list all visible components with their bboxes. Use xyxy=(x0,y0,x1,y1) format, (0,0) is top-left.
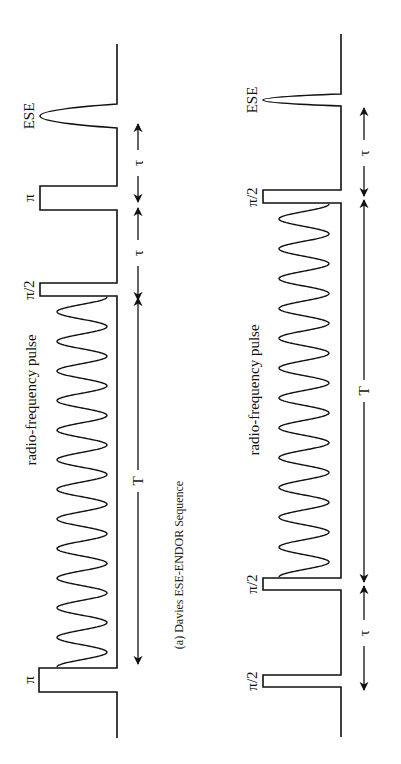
left-rf-label: radio-frequency pulse xyxy=(23,334,39,466)
right-ese-label: ESE xyxy=(244,87,260,114)
right-sequence: ESE π/2 radio-frequency pulse π/2 π/2 τ … xyxy=(244,34,372,737)
left-tau2-arrow: τ xyxy=(130,208,146,300)
left-T-label: T xyxy=(130,476,146,485)
right-T-arrow: T xyxy=(356,200,372,582)
left-pi-top-label: π xyxy=(21,194,37,202)
left-tau1-label: τ xyxy=(130,160,146,166)
left-sequence: ESE π π/2 radio-frequency pulse π τ τ T … xyxy=(21,44,186,738)
left-T-arrow: T xyxy=(130,298,146,664)
right-pi2-bottom-label: π/2 xyxy=(244,671,260,690)
left-ese-label: ESE xyxy=(21,103,37,130)
left-timeline xyxy=(39,44,117,738)
left-rf-wave xyxy=(57,297,107,667)
right-tau1-label: τ xyxy=(356,150,372,156)
right-T-label: T xyxy=(356,386,372,395)
right-tau2-label: τ xyxy=(356,630,372,636)
right-rf-label: radio-frequency pulse xyxy=(246,324,262,456)
left-tau1-arrow: τ xyxy=(130,124,146,202)
right-pi2-top-label: π/2 xyxy=(244,187,260,206)
right-tau1-arrow: τ xyxy=(356,108,372,196)
right-timeline xyxy=(263,34,341,737)
right-pi2-mid-label: π/2 xyxy=(244,574,260,593)
left-pi-bottom-label: π xyxy=(21,676,37,684)
left-tau2-label: τ xyxy=(130,250,146,256)
pulse-sequence-figure: ESE π π/2 radio-frequency pulse π τ τ T … xyxy=(0,0,401,764)
left-pi2-label: π/2 xyxy=(21,280,37,299)
figure-caption: (a) Davies ESE-ENDOR Sequence xyxy=(172,481,186,649)
right-rf-wave xyxy=(279,204,329,577)
right-tau2-arrow: τ xyxy=(356,586,372,690)
